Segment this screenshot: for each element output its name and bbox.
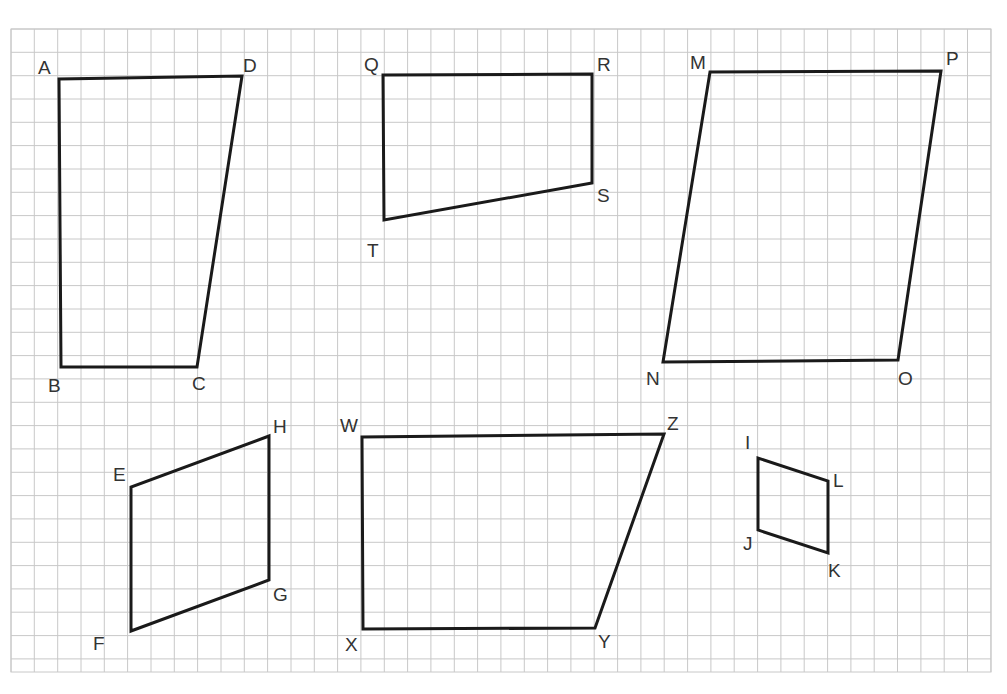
vertex-label-w: W	[340, 415, 358, 436]
vertex-label-s: S	[597, 185, 610, 206]
vertex-label-g: G	[273, 584, 288, 605]
quadrilaterals-diagram: ABCDQRSTMNOPEFGHWXYZIJKL	[0, 0, 1007, 694]
quadrilateral-mnop	[663, 71, 941, 362]
vertex-label-p: P	[946, 48, 959, 69]
vertex-label-n: N	[646, 368, 660, 389]
vertex-label-e: E	[113, 464, 126, 485]
vertex-label-a: A	[38, 57, 51, 78]
grid-paper	[11, 29, 991, 672]
vertex-label-k: K	[828, 560, 841, 581]
vertex-label-q: Q	[364, 54, 379, 75]
vertex-labels-layer: ABCDQRSTMNOPEFGHWXYZIJKL	[38, 48, 959, 655]
vertex-label-x: X	[345, 634, 358, 655]
vertex-label-r: R	[597, 54, 611, 75]
vertex-label-y: Y	[598, 631, 611, 652]
vertex-label-b: B	[48, 375, 61, 396]
shapes-layer	[59, 71, 941, 631]
vertex-label-c: C	[192, 373, 206, 394]
vertex-label-i: I	[745, 432, 750, 453]
vertex-label-o: O	[898, 368, 913, 389]
vertex-label-j: J	[743, 533, 753, 554]
vertex-label-d: D	[243, 55, 257, 76]
vertex-label-l: L	[833, 470, 844, 491]
vertex-label-z: Z	[667, 413, 679, 434]
vertex-label-m: M	[690, 52, 706, 73]
vertex-label-f: F	[93, 633, 105, 654]
quadrilateral-efgh	[131, 436, 269, 631]
quadrilateral-qrst	[383, 74, 592, 220]
vertex-label-t: T	[367, 240, 379, 261]
vertex-label-h: H	[273, 416, 287, 437]
